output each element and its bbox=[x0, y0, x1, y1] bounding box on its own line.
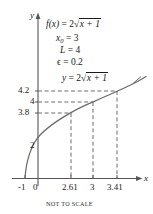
annotation-epsilon: ϵ = 0.2 bbox=[57, 58, 83, 68]
limit-equals: = bbox=[68, 45, 73, 55]
y-tick-label-2: 2 bbox=[30, 141, 35, 150]
annotation-function-definition: f(x) = 2√x + 1 bbox=[46, 20, 101, 30]
annotation-x0: x0 = 3 bbox=[56, 34, 78, 44]
x0-equals: = bbox=[66, 33, 71, 43]
x-tick-label-3-41: 3.41 bbox=[107, 183, 123, 192]
epsilon-symbol: ϵ bbox=[57, 57, 61, 67]
figure-caption: NOT TO SCALE bbox=[46, 201, 93, 207]
function-equals: = bbox=[62, 19, 67, 29]
annotation-limit: L = 4 bbox=[60, 46, 80, 56]
y-tick-label-3-8: 3.8 bbox=[18, 108, 29, 117]
y-axis-arrowhead bbox=[36, 13, 41, 20]
epsilon-value: 0.2 bbox=[71, 57, 83, 67]
y-tick-label-4-2: 4.2 bbox=[18, 86, 29, 95]
x-tick-label--1: -1 bbox=[18, 183, 26, 192]
radicand: x + 1 bbox=[79, 18, 101, 29]
x0-value: 3 bbox=[74, 33, 79, 43]
x-tick-label-2-61: 2.61 bbox=[62, 183, 78, 192]
function-curve bbox=[25, 76, 147, 178]
x-axis-arrowhead bbox=[136, 176, 143, 181]
function-name: f(x) bbox=[46, 19, 59, 29]
curve-label-lhs: y bbox=[62, 73, 66, 83]
y-tick-label-4: 4 bbox=[30, 97, 35, 106]
x-axis-label: x bbox=[144, 174, 148, 183]
limit-name: L bbox=[60, 45, 65, 55]
limit-value: 4 bbox=[75, 45, 80, 55]
epsilon-delta-limit-figure: y x f(x) = 2√x + 1 x0 = 3 L = 4 ϵ = 0.2 … bbox=[0, 0, 153, 214]
y-axis-label: y bbox=[30, 11, 34, 20]
curve-label-radicand: x + 1 bbox=[86, 72, 108, 83]
x0-subscript: 0 bbox=[60, 37, 63, 44]
epsilon-equals: = bbox=[63, 57, 68, 67]
x-tick-label-0: 0 bbox=[33, 183, 38, 192]
x-tick-label-3: 3 bbox=[90, 183, 95, 192]
curve-equation-label: y = 2√x + 1 bbox=[62, 74, 108, 84]
curve-label-equals: = bbox=[69, 73, 74, 83]
